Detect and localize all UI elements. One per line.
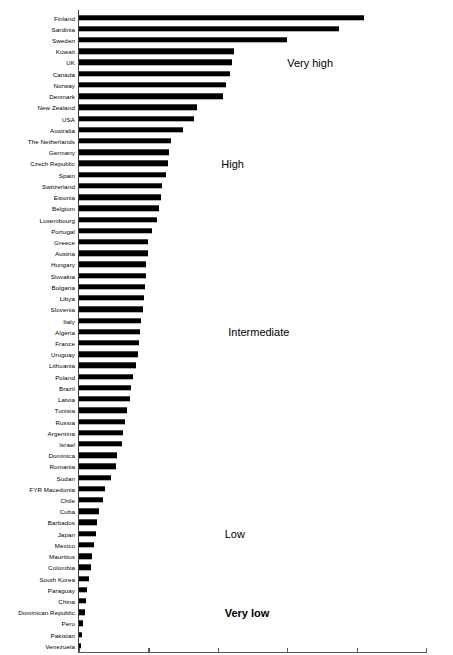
category-label: Barbados (48, 519, 75, 526)
bar-row: Paraguay (0, 584, 453, 595)
bar (79, 82, 226, 87)
zone-annotation: Low (225, 528, 245, 540)
category-label: Luxembourg (40, 216, 75, 223)
x-axis-tick (287, 648, 288, 652)
category-label: Mauritius (49, 553, 75, 560)
bar-row: Venezuela (0, 640, 453, 651)
bar (79, 284, 145, 289)
bar-row: Dominica (0, 450, 453, 461)
bar-row: New Zealand (0, 102, 453, 113)
category-label: Belgium (52, 205, 75, 212)
category-label: Pakistan (50, 631, 75, 638)
bar (79, 194, 161, 199)
category-label: Kuwait (56, 48, 75, 55)
category-label: China (58, 598, 75, 605)
x-axis-tick (218, 648, 219, 652)
category-label: Paraguay (48, 586, 75, 593)
category-label: UK (66, 59, 75, 66)
bar (79, 385, 131, 390)
bar (79, 430, 123, 435)
category-label: Australia (50, 126, 75, 133)
category-label: Slovenia (50, 306, 75, 313)
bar (79, 497, 103, 502)
bar (79, 374, 133, 379)
bar-row: Tunisia (0, 405, 453, 416)
category-label: Sardinia (51, 25, 75, 32)
bar (79, 351, 138, 356)
bar (79, 295, 144, 300)
category-label: Norway (53, 81, 75, 88)
bar-row: Belgium (0, 203, 453, 214)
bar-row: Poland (0, 371, 453, 382)
bar-row: Australia (0, 124, 453, 135)
category-label: Lithuania (49, 362, 75, 369)
bar (79, 228, 152, 233)
bar-row: Germany (0, 147, 453, 158)
bar (79, 273, 146, 278)
category-label: Switzerland (42, 182, 75, 189)
bar (79, 565, 91, 570)
category-label: Colombia (48, 564, 75, 571)
bar (79, 49, 234, 54)
category-label: Tunisia (55, 407, 75, 414)
bar (79, 598, 86, 603)
bar-row: Luxembourg (0, 214, 453, 225)
bar (79, 150, 169, 155)
bar (79, 408, 127, 413)
bar (79, 441, 122, 446)
incidence-bar-chart: FinlandSardiniaSwedenKuwaitUKCanadaNorwa… (0, 0, 453, 655)
bar-row: Sweden (0, 34, 453, 45)
bar-row: Austria (0, 248, 453, 259)
bar (79, 553, 92, 558)
bar-row: Latvia (0, 393, 453, 404)
category-label: Spain (59, 171, 75, 178)
x-axis-tick (357, 648, 358, 652)
bar (79, 307, 143, 312)
bar-row: Hungary (0, 259, 453, 270)
bar-row: France (0, 337, 453, 348)
category-label: Finland (54, 14, 75, 21)
category-label: Libya (60, 295, 75, 302)
bar (79, 217, 157, 222)
category-label: Denmark (49, 93, 75, 100)
bar (79, 138, 171, 143)
bar-row: Sudan (0, 472, 453, 483)
bar-row: Kuwait (0, 46, 453, 57)
bar-row: Italy (0, 315, 453, 326)
bar (79, 542, 94, 547)
bar-row: South Korea (0, 573, 453, 584)
bar-row: Brazil (0, 382, 453, 393)
category-label: Chile (60, 497, 75, 504)
category-label: Sweden (52, 37, 75, 44)
bar (79, 93, 223, 98)
bar-row: Mauritius (0, 551, 453, 562)
bar-row: Slovenia (0, 304, 453, 315)
bar-row: UK (0, 57, 453, 68)
bar-row: Slovakia (0, 270, 453, 281)
bar (79, 251, 148, 256)
category-label: Hungary (51, 261, 75, 268)
bar (79, 520, 97, 525)
bar-row: Mexico (0, 539, 453, 550)
bar (79, 60, 232, 65)
bar (79, 340, 139, 345)
bar (79, 610, 85, 615)
category-label: FYR Macedonia (29, 485, 75, 492)
bar-row: Pakistan (0, 629, 453, 640)
bar (79, 318, 141, 323)
category-label: Latvia (58, 396, 75, 403)
zone-annotation: Very low (225, 607, 270, 619)
category-label: Mexico (55, 541, 75, 548)
bar (79, 116, 194, 121)
zone-annotation: Very high (287, 57, 333, 69)
x-axis-tick (79, 648, 80, 652)
bar (79, 26, 339, 31)
bar-row: Estonia (0, 192, 453, 203)
bar-row: Lithuania (0, 360, 453, 371)
bar (79, 419, 125, 424)
x-axis-tick (426, 648, 427, 652)
bar-row: Chile (0, 494, 453, 505)
category-label: Uruguay (51, 351, 75, 358)
bar-row: Spain (0, 169, 453, 180)
bar-row: The Netherlands (0, 135, 453, 146)
